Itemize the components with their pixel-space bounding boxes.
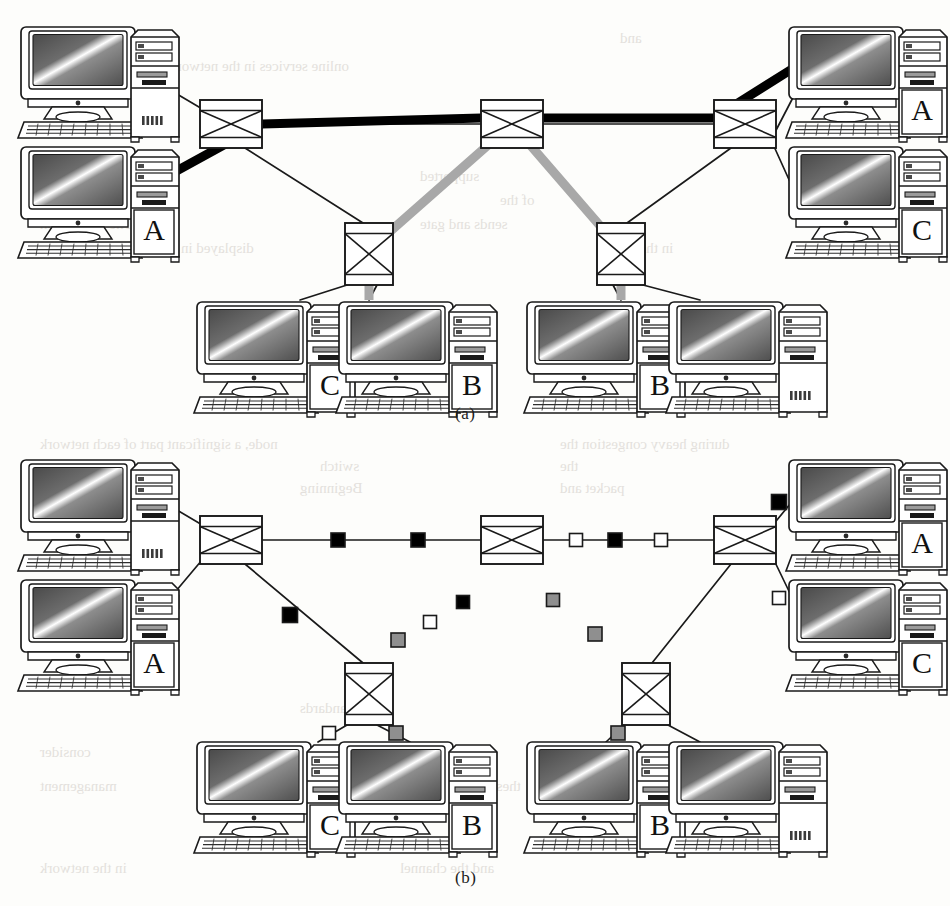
tower-icon (779, 305, 827, 417)
ws-top-left-1[interactable] (18, 27, 179, 142)
monitor-icon (336, 742, 460, 853)
panel-a-workstations: AACCBB (18, 27, 947, 417)
marker-top-seg2-b[interactable] (608, 533, 622, 547)
host-label: C (912, 213, 932, 246)
ws-bottom-2[interactable]: B (336, 302, 497, 417)
marker-right-host-c[interactable] (773, 592, 786, 605)
host-label: C (912, 646, 932, 679)
ws-bottom-3[interactable]: B (524, 302, 685, 417)
monitor-icon (524, 302, 648, 413)
ws-bottom-4[interactable] (666, 302, 827, 417)
monitor-icon (524, 742, 648, 853)
caption-panel-a: (a) (455, 404, 475, 424)
ws-top-left-2[interactable]: A (18, 147, 179, 262)
ws-bottom-1[interactable]: C (194, 742, 355, 857)
marker-left-diag2[interactable] (457, 596, 470, 609)
switch-top-left[interactable] (200, 516, 262, 564)
ws-top-right-1[interactable]: A (786, 460, 947, 575)
ws-top-left-1[interactable] (18, 460, 179, 575)
tower-icon (131, 463, 179, 575)
caption-panel-b: (b) (455, 868, 476, 888)
marker-left-diag[interactable] (283, 608, 298, 623)
monitor-icon (18, 27, 142, 138)
marker-br-left[interactable] (611, 726, 625, 740)
ws-bottom-1[interactable]: C (194, 302, 355, 417)
monitor-icon (786, 147, 910, 258)
switch-top-left[interactable] (200, 100, 262, 148)
marker-right-diag2[interactable] (588, 627, 602, 641)
network-link (245, 564, 363, 663)
host-label: A (143, 213, 165, 246)
host-label: C (320, 368, 340, 401)
monitor-icon (18, 460, 142, 571)
monitor-icon (18, 147, 142, 258)
ws-top-right-2[interactable]: C (786, 580, 947, 695)
host-label: A (143, 646, 165, 679)
monitor-icon (194, 302, 318, 413)
monitor-icon (18, 580, 142, 691)
marker-right-host-a[interactable] (772, 495, 787, 510)
host-label: A (911, 526, 933, 559)
switch-bottom-right[interactable] (597, 223, 645, 285)
ws-bottom-4[interactable] (666, 742, 827, 857)
network-link (300, 285, 347, 300)
marker-left-diag4[interactable] (391, 633, 405, 647)
marker-bl-right[interactable] (389, 726, 403, 740)
switch-top-right[interactable] (714, 100, 776, 148)
monitor-icon (786, 27, 910, 138)
ws-bottom-3[interactable]: B (524, 742, 685, 857)
marker-bl-left[interactable] (323, 727, 336, 740)
network-diagram-svg: AACCBB AACCBB (0, 0, 950, 906)
switch-bottom-right[interactable] (622, 663, 670, 725)
network-link (668, 725, 700, 742)
marker-top-seg1-a[interactable] (331, 533, 345, 547)
tower-icon (779, 745, 827, 857)
monitor-icon (786, 460, 910, 571)
network-link (627, 148, 731, 223)
switch-top-center[interactable] (481, 100, 543, 148)
network-link (643, 285, 700, 300)
switch-top-right[interactable] (714, 516, 776, 564)
monitor-icon (336, 302, 460, 413)
network-link (245, 148, 363, 223)
monitor-icon (786, 580, 910, 691)
monitor-icon (666, 302, 790, 413)
monitor-icon (666, 742, 790, 853)
host-label: B (462, 368, 482, 401)
switch-top-center[interactable] (481, 516, 543, 564)
host-label: A (911, 93, 933, 126)
ws-top-left-2[interactable]: A (18, 580, 179, 695)
monitor-icon (194, 742, 318, 853)
host-label: C (320, 808, 340, 841)
host-label: B (650, 368, 670, 401)
marker-top-seg2-a[interactable] (570, 534, 583, 547)
figure-root: systems. The computerandonline services … (0, 0, 950, 906)
switch-bottom-left[interactable] (345, 223, 393, 285)
ws-top-right-2[interactable]: C (786, 147, 947, 262)
marker-left-diag3[interactable] (424, 616, 437, 629)
host-label: B (462, 808, 482, 841)
tower-icon (131, 30, 179, 142)
switch-bottom-left[interactable] (345, 663, 393, 725)
marker-right-diag1[interactable] (547, 594, 560, 607)
marker-top-seg1-b[interactable] (411, 533, 425, 547)
marker-top-seg2-c[interactable] (655, 534, 668, 547)
ws-top-right-1[interactable]: A (786, 27, 947, 142)
path-gray (369, 124, 621, 300)
ws-bottom-2[interactable]: B (336, 742, 497, 857)
network-link (652, 564, 731, 663)
host-label: B (650, 808, 670, 841)
